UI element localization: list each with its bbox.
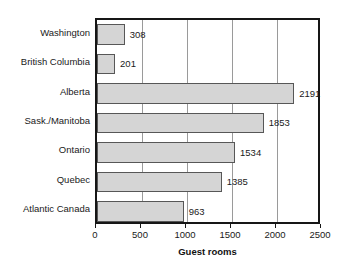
x-tick-0 bbox=[95, 224, 96, 228]
bar-chart: WashingtonBritish ColumbiaAlbertaSask./M… bbox=[0, 0, 346, 266]
bar bbox=[97, 54, 115, 75]
bar bbox=[97, 83, 294, 104]
x-tick-label: 1500 bbox=[219, 230, 240, 240]
x-axis-title: Guest rooms bbox=[95, 246, 320, 257]
x-tick-label: 1000 bbox=[174, 230, 195, 240]
category-axis-labels: WashingtonBritish ColumbiaAlbertaSask./M… bbox=[0, 18, 90, 224]
bar-row: 308 bbox=[97, 24, 318, 45]
x-tick-1000 bbox=[185, 224, 186, 228]
bar bbox=[97, 201, 184, 222]
bar-row: 963 bbox=[97, 201, 318, 222]
x-tick-label: 500 bbox=[132, 230, 148, 240]
bar-value-label: 308 bbox=[130, 30, 146, 40]
bar-value-label: 201 bbox=[120, 59, 136, 69]
x-tick-2500 bbox=[320, 224, 321, 228]
category-label: Atlantic Canada bbox=[0, 204, 90, 214]
category-label: Alberta bbox=[0, 87, 90, 97]
bar-row: 1534 bbox=[97, 142, 318, 163]
bars-container: 3082012191185315341385963 bbox=[97, 20, 318, 222]
bar-value-label: 1853 bbox=[269, 118, 290, 128]
bar-row: 2191 bbox=[97, 83, 318, 104]
category-label: Washington bbox=[0, 28, 90, 38]
x-tick-500 bbox=[140, 224, 141, 228]
bar-value-label: 1385 bbox=[227, 177, 248, 187]
x-tick-label: 0 bbox=[92, 230, 97, 240]
bar-value-label: 1534 bbox=[240, 148, 261, 158]
category-label: Quebec bbox=[0, 175, 90, 185]
x-tick-label: 2500 bbox=[309, 230, 330, 240]
bar-row: 201 bbox=[97, 54, 318, 75]
x-tick-label: 2000 bbox=[264, 230, 285, 240]
category-label: Sask./Manitoba bbox=[0, 116, 90, 126]
x-tick-2000 bbox=[275, 224, 276, 228]
bar bbox=[97, 24, 125, 45]
bar bbox=[97, 172, 222, 193]
x-tick-1500 bbox=[230, 224, 231, 228]
bar bbox=[97, 142, 235, 163]
bar bbox=[97, 113, 264, 134]
category-label: Ontario bbox=[0, 145, 90, 155]
plot-area: 3082012191185315341385963 bbox=[95, 18, 320, 224]
bar-row: 1853 bbox=[97, 113, 318, 134]
bar-value-label: 963 bbox=[189, 207, 205, 217]
bar-row: 1385 bbox=[97, 172, 318, 193]
bar-value-label: 2191 bbox=[299, 89, 320, 99]
category-label: British Columbia bbox=[0, 57, 90, 67]
